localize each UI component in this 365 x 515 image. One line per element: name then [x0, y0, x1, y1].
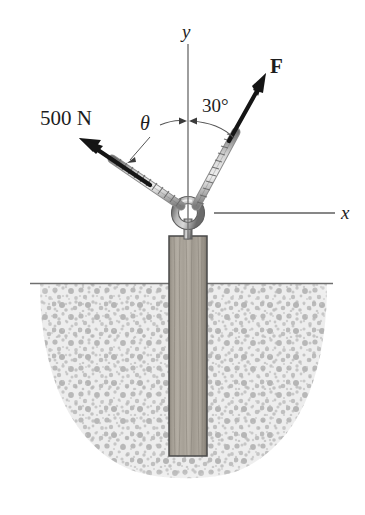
right-rope: [196, 132, 236, 206]
thirty-degree-arc: [191, 121, 234, 138]
mechanics-figure: 500 N F 30° θ y x: [0, 0, 365, 515]
force-label-500n: 500 N: [40, 108, 92, 129]
force-arrow-500n: [79, 138, 150, 185]
axis-label-x: x: [341, 203, 349, 222]
angle-label-theta: θ: [140, 113, 150, 133]
axis-label-y: y: [182, 22, 190, 41]
force-label-f: F: [270, 56, 283, 77]
figure-canvas: [0, 0, 365, 515]
theta-leader-line: [130, 137, 150, 160]
force-arrow-f: [229, 73, 266, 141]
wooden-post: [169, 236, 207, 456]
angle-label-30-degrees: 30°: [202, 96, 229, 115]
